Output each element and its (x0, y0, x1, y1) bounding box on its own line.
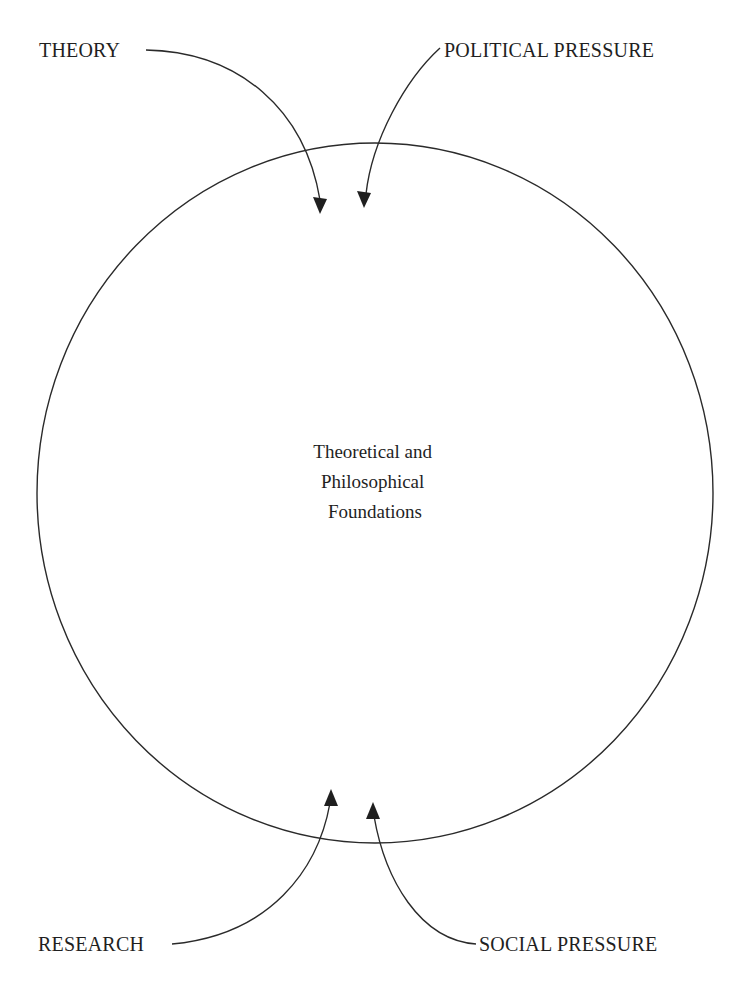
political-pressure-arrow-line (366, 48, 440, 194)
social-pressure-label: SOCIAL PRESSURE (479, 933, 657, 955)
theory-arrow-line (146, 50, 320, 200)
center-label-line-3: Foundations (328, 501, 422, 522)
research-arrow-line (172, 803, 330, 944)
arrowhead-down-icon (357, 191, 371, 208)
theory-label: THEORY (39, 39, 120, 61)
center-label-line-1: Theoretical and (313, 441, 432, 462)
political-pressure-label: POLITICAL PRESSURE (444, 39, 654, 61)
arrowhead-up-icon (324, 789, 338, 806)
arrowhead-down-icon (313, 197, 327, 214)
input-social-pressure: SOCIAL PRESSURE (366, 802, 657, 955)
foundations-circle (37, 143, 713, 843)
input-theory: THEORY (39, 39, 327, 214)
center-label-line-2: Philosophical (321, 471, 424, 492)
arrowhead-up-icon (366, 802, 380, 819)
social-pressure-arrow-line (374, 816, 476, 944)
figure-caption-cropped (34, 980, 454, 989)
influence-diagram: Theoretical and Philosophical Foundation… (0, 0, 751, 989)
input-political-pressure: POLITICAL PRESSURE (357, 39, 654, 208)
input-research: RESEARCH (38, 789, 338, 955)
center-node-label: Theoretical and Philosophical Foundation… (313, 441, 436, 522)
research-label: RESEARCH (38, 933, 144, 955)
